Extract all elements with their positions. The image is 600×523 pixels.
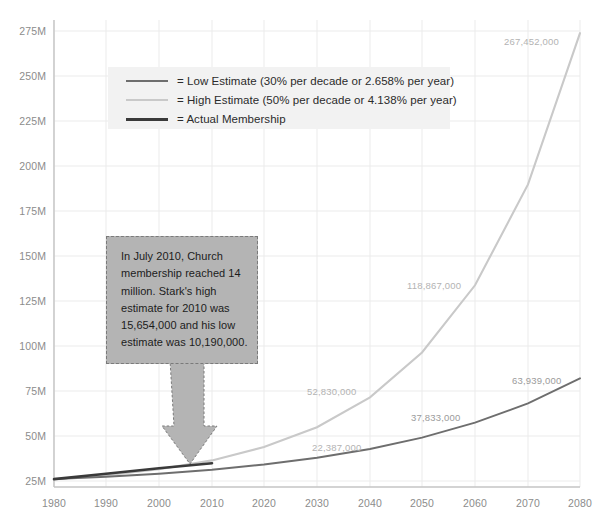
legend-label-high-estimate: = High Estimate (50% per decade or 4.138… xyxy=(177,94,457,106)
annotation-callout-text: In July 2010, Church membership reached … xyxy=(121,248,249,352)
x-tick-2050: 2050 xyxy=(402,497,442,509)
legend-label-actual-membership: = Actual Membership xyxy=(177,113,286,125)
legend-item-actual-membership: = Actual Membership xyxy=(126,111,286,127)
legend-item-low-estimate: = Low Estimate (30% per decade or 2.658%… xyxy=(126,73,454,89)
x-tick-2000: 2000 xyxy=(139,497,179,509)
x-tick-2010: 2010 xyxy=(192,497,232,509)
x-tick-1980: 1980 xyxy=(34,497,74,509)
data-label-high-2030: 22,387,000 xyxy=(312,442,362,453)
x-tick-2020: 2020 xyxy=(244,497,284,509)
legend-label-low-estimate: = Low Estimate (30% per decade or 2.658%… xyxy=(177,75,454,87)
y-tick-200m: 200M xyxy=(0,160,46,172)
y-tick-75m: 75M xyxy=(0,385,46,397)
y-tick-125m: 125M xyxy=(0,295,46,307)
data-label-high-2080: 267,452,000 xyxy=(504,36,559,47)
x-tick-2040: 2040 xyxy=(350,497,390,509)
legend-swatch-low-estimate xyxy=(126,80,168,82)
x-tick-2030: 2030 xyxy=(297,497,337,509)
legend-item-high-estimate: = High Estimate (50% per decade or 4.138… xyxy=(126,92,457,108)
x-tick-2080: 2080 xyxy=(560,497,600,509)
y-tick-225m: 225M xyxy=(0,115,46,127)
callout-arrow-icon xyxy=(160,360,240,485)
x-tick-2060: 2060 xyxy=(455,497,495,509)
y-tick-50m: 50M xyxy=(0,430,46,442)
y-tick-100m: 100M xyxy=(0,340,46,352)
y-tick-175m: 175M xyxy=(0,205,46,217)
data-label-high-2040: 52,830,000 xyxy=(307,386,357,397)
data-label-low-2060: 37,833,000 xyxy=(411,412,461,423)
y-tick-25m: 25M xyxy=(0,475,46,487)
legend-swatch-actual-membership xyxy=(126,118,168,121)
data-label-high-2060: 118,867,000 xyxy=(407,280,461,291)
data-label-low-2080: 63,939,000 xyxy=(512,375,562,386)
x-tick-2070: 2070 xyxy=(508,497,548,509)
legend-swatch-high-estimate xyxy=(126,99,168,101)
membership-growth-chart: 275M 250M 225M 200M 175M 150M 125M 100M … xyxy=(0,0,600,523)
y-tick-275m: 275M xyxy=(0,25,46,37)
chart-legend: = Low Estimate (30% per decade or 2.658%… xyxy=(108,67,450,129)
y-tick-250m: 250M xyxy=(0,70,46,82)
y-tick-150m: 150M xyxy=(0,250,46,262)
x-tick-1990: 1990 xyxy=(86,497,126,509)
annotation-callout: In July 2010, Church membership reached … xyxy=(106,236,258,364)
